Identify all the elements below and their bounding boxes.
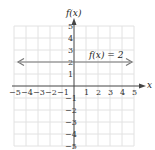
x-tick-label: 4 — [120, 88, 125, 97]
y-tick-label: 5 — [68, 22, 73, 31]
x-tick-label: −2 — [45, 88, 57, 97]
x-tick-label: 1 — [84, 88, 89, 97]
y-axis-label: f(x) — [65, 8, 82, 18]
function-graph: x f(x) −5−4−3−2−112345 54321−1−2−3−4−5 f… — [0, 0, 155, 150]
x-tick-label: −4 — [21, 88, 33, 97]
x-tick-label: −3 — [33, 88, 45, 97]
y-tick-label: 3 — [68, 46, 73, 55]
y-tick-label: −3 — [65, 118, 77, 127]
y-tick-label: −2 — [65, 106, 77, 115]
y-tick-label: 1 — [68, 70, 73, 79]
y-tick-label: 4 — [68, 34, 73, 43]
x-tick-label: −5 — [9, 88, 21, 97]
x-tick-label: 3 — [108, 88, 113, 97]
x-axis-arrow-icon — [139, 84, 146, 89]
y-tick-label: −4 — [65, 130, 77, 139]
y-tick-label: −1 — [65, 94, 77, 103]
x-tick-label: 5 — [132, 88, 137, 97]
x-tick-label: 2 — [96, 88, 101, 97]
x-axis-label: x — [147, 80, 152, 90]
y-tick-label: −5 — [65, 142, 77, 150]
function-label: f(x) = 2 — [88, 50, 124, 60]
